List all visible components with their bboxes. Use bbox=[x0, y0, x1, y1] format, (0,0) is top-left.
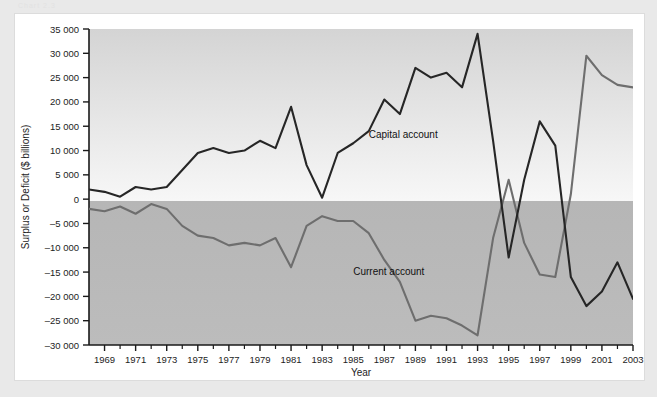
svg-text:1979: 1979 bbox=[249, 354, 270, 365]
page-watermark: Chart 2.3 bbox=[18, 2, 56, 9]
svg-text:15 000: 15 000 bbox=[50, 121, 79, 132]
svg-text:1973: 1973 bbox=[156, 354, 177, 365]
chart-figure: 35 00030 00025 00020 00015 00010 0005 00… bbox=[14, 13, 645, 381]
svg-text:1971: 1971 bbox=[125, 354, 146, 365]
svg-text:1989: 1989 bbox=[405, 354, 426, 365]
svg-text:1991: 1991 bbox=[436, 354, 457, 365]
y-axis-ticks: 35 00030 00025 00020 00015 00010 0005 00… bbox=[45, 24, 89, 351]
x-axis-title: Year bbox=[351, 367, 372, 378]
svg-text:1997: 1997 bbox=[529, 354, 550, 365]
svg-text:1975: 1975 bbox=[187, 354, 208, 365]
svg-text:1995: 1995 bbox=[498, 354, 519, 365]
svg-text:2003: 2003 bbox=[622, 354, 643, 365]
svg-text:–5 000: –5 000 bbox=[50, 218, 79, 229]
svg-text:0: 0 bbox=[74, 194, 79, 205]
series-label-capital-account: Capital account bbox=[369, 129, 438, 140]
svg-text:–30 000: –30 000 bbox=[45, 340, 79, 351]
svg-text:10 000: 10 000 bbox=[50, 145, 79, 156]
svg-text:20 000: 20 000 bbox=[50, 96, 79, 107]
svg-text:30 000: 30 000 bbox=[50, 48, 79, 59]
svg-text:1977: 1977 bbox=[218, 354, 239, 365]
plot-background-positive bbox=[89, 29, 633, 201]
svg-text:35 000: 35 000 bbox=[50, 24, 79, 35]
series-label-current-account: Current account bbox=[353, 266, 424, 277]
svg-text:5 000: 5 000 bbox=[55, 169, 79, 180]
svg-text:–20 000: –20 000 bbox=[45, 291, 79, 302]
svg-text:1981: 1981 bbox=[280, 354, 301, 365]
svg-text:–10 000: –10 000 bbox=[45, 242, 79, 253]
svg-text:–15 000: –15 000 bbox=[45, 267, 79, 278]
svg-text:25 000: 25 000 bbox=[50, 72, 79, 83]
x-axis-ticks: 1969197119731975197719791981198319851987… bbox=[94, 345, 644, 365]
svg-text:–25 000: –25 000 bbox=[45, 315, 79, 326]
svg-text:2001: 2001 bbox=[591, 354, 612, 365]
svg-text:1985: 1985 bbox=[343, 354, 364, 365]
svg-text:1983: 1983 bbox=[312, 354, 333, 365]
svg-text:1969: 1969 bbox=[94, 354, 115, 365]
svg-text:1993: 1993 bbox=[467, 354, 488, 365]
svg-text:1999: 1999 bbox=[560, 354, 581, 365]
y-axis-title: Surplus or Deficit ($ billions) bbox=[20, 125, 31, 250]
svg-text:1987: 1987 bbox=[374, 354, 395, 365]
balance-of-payments-chart: 35 00030 00025 00020 00015 00010 0005 00… bbox=[15, 14, 644, 380]
